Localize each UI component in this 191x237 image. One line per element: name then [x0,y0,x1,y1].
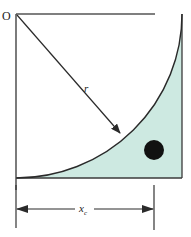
origin-label: O [2,9,11,23]
radius-label: r [84,82,89,94]
dimension-label-subscript: c [84,209,88,217]
particle-dot [144,140,164,160]
dimension-label: xc [78,202,88,217]
diagram-canvas: O r xc [0,0,191,237]
radius-arrow [17,15,120,133]
